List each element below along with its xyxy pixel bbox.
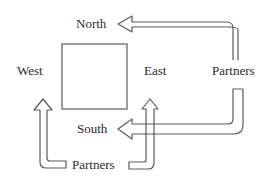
label-south: South — [77, 122, 107, 135]
label-partners-right: Partners — [212, 64, 255, 77]
diagram-canvas — [0, 0, 278, 177]
label-west: West — [17, 64, 43, 77]
arrow-to-west — [34, 99, 66, 168]
central-box — [62, 44, 127, 109]
label-partners-bottom: Partners — [72, 158, 115, 171]
label-east: East — [144, 64, 166, 77]
arrow-to-south — [118, 89, 243, 139]
arrow-to-north — [118, 16, 238, 60]
label-north: North — [76, 17, 106, 30]
